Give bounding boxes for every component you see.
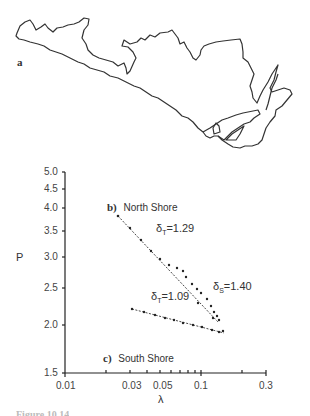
y-tick-4.0: 4.0: [44, 202, 58, 213]
y-tick-2.5: 2.5: [44, 282, 58, 293]
x-tick-0.05: 0.05: [153, 380, 172, 391]
x-tick-0.3: 0.3: [259, 380, 273, 391]
south-shore-title: c) South Shore: [103, 352, 174, 364]
delta-s-label: δS=1.40: [213, 280, 252, 294]
y-tick-1.5: 1.5: [44, 367, 58, 378]
y-tick-3.5: 3.5: [44, 225, 58, 236]
y-tick-2.0: 2.0: [44, 319, 58, 330]
delta-t-south-label: δT=1.09: [151, 290, 189, 304]
x-axis-label: λ: [158, 393, 164, 405]
y-tick-4.5: 4.5: [44, 183, 58, 194]
x-tick-0.03: 0.03: [122, 380, 141, 391]
x-tick-0.01: 0.01: [56, 380, 75, 391]
y-axis-label: P: [16, 251, 23, 263]
delta-t-north-label: δT=1.29: [156, 222, 194, 236]
y-tick-3.0: 3.0: [44, 251, 58, 262]
x-tick-0.1: 0.1: [194, 380, 208, 391]
figure-caption: Figure 10.14: [16, 409, 69, 416]
north-shore-title: b) North Shore: [107, 201, 177, 213]
y-tick-5.0: 5.0: [44, 166, 58, 177]
